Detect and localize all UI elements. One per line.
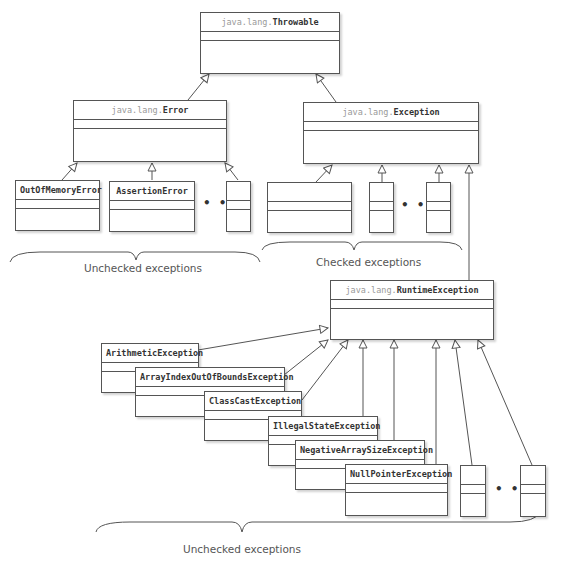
unchecked-runtime-label: Unchecked exceptions [183, 543, 301, 555]
unchecked-error-label: Unchecked exceptions [84, 262, 202, 274]
class-name: Throwable [273, 17, 319, 27]
package-name: java.lang. [345, 285, 396, 295]
class-name: Error [163, 105, 189, 115]
class-runtime-exception: java.lang.RuntimeException [330, 280, 494, 340]
class-unnamed-checked-3 [426, 182, 451, 233]
class-out-of-memory-error: OutOfMemoryError [15, 180, 100, 231]
package-name: java.lang. [221, 17, 272, 27]
package-name: java.lang. [112, 105, 163, 115]
class-unnamed-runtime-1 [460, 465, 486, 517]
class-unnamed-error [226, 181, 251, 232]
class-unnamed-runtime-2 [520, 465, 546, 517]
class-unnamed-checked-1 [267, 182, 352, 233]
class-exception: java.lang.Exception [303, 102, 479, 164]
package-name: java.lang. [342, 107, 393, 117]
class-name: Exception [394, 107, 440, 117]
exception-hierarchy-diagram: java.lang.Throwable java.lang.Error java… [0, 0, 562, 565]
class-null-pointer-exception: NullPointerException [345, 464, 448, 516]
class-assertion-error: AssertionError [109, 181, 195, 232]
class-error: java.lang.Error [73, 100, 227, 162]
class-unnamed-checked-2 [369, 182, 394, 233]
class-name: RuntimeException [397, 285, 479, 295]
class-throwable: java.lang.Throwable [200, 12, 340, 74]
checked-label: Checked exceptions [316, 256, 421, 268]
